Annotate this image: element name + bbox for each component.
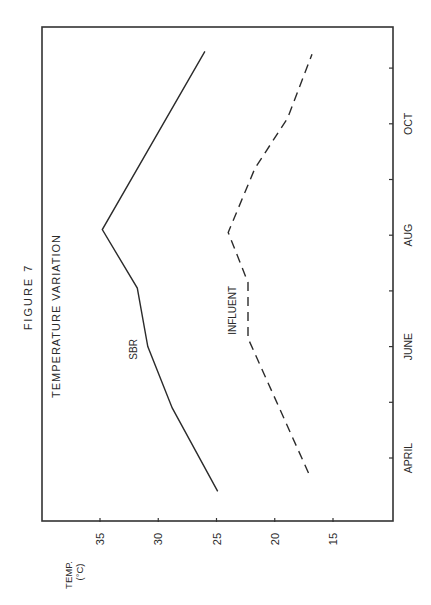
series-group [102, 51, 312, 491]
y-axis-unit: (°C) [74, 564, 85, 581]
series-line-sbr [102, 51, 217, 491]
y-tick-label: 25 [211, 533, 223, 545]
series-label-sbr: SBR [128, 339, 139, 360]
y-tick-label: 30 [152, 533, 164, 545]
chart-title: TEMPERATURE VARIATION [50, 234, 62, 398]
temperature-chart: FIGURE 7 APRILJUNEAUGOCT 1520253035 SBRI… [0, 0, 431, 605]
x-tick-label: JUNE [402, 333, 414, 360]
series-line-influent [228, 54, 312, 473]
plot-frame [42, 27, 393, 521]
figure-label: FIGURE 7 [22, 264, 34, 331]
y-tick-label: 20 [269, 533, 281, 545]
label-group: SBRINFLUENT [128, 286, 238, 360]
x-tick-label: OCT [402, 112, 414, 135]
x-tick-label: AUG [402, 224, 414, 247]
y-tick-label: 35 [94, 533, 106, 545]
y-tick-label: 15 [327, 533, 339, 545]
y-axis: 1520253035 [94, 518, 339, 545]
series-label-influent: INFLUENT [227, 286, 238, 335]
y-axis-label: TEMP. [63, 561, 74, 589]
x-tick-label: APRIL [402, 443, 414, 474]
